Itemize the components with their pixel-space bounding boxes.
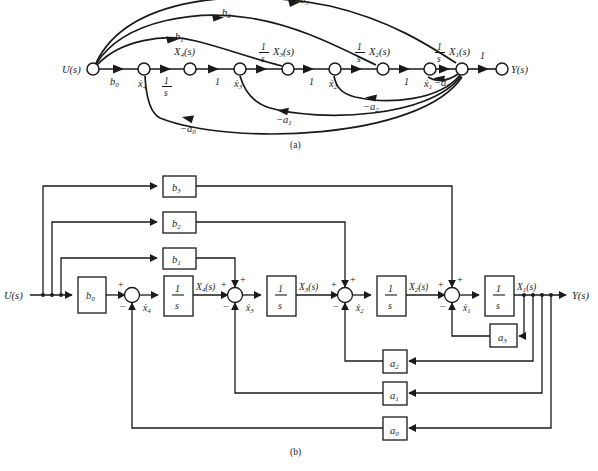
svg-text:1: 1 <box>164 76 169 86</box>
curve-b2 <box>96 15 376 65</box>
label-unity-a3: 1 <box>404 76 409 87</box>
node-x2dot <box>329 63 341 75</box>
svg-text:1: 1 <box>175 283 180 294</box>
label-b0: b0 <box>110 76 119 89</box>
panel-a-feedback-curves <box>145 74 462 134</box>
label-minus-a1: −a1 <box>276 114 292 127</box>
label-b-x2dot: ẋ2 <box>355 303 364 314</box>
panel-b: U(s) Y(s) b0 b3 b2 b1 a3 a2 a1 a0 1 s 1 … <box>4 176 589 458</box>
svg-text:−: − <box>333 301 339 312</box>
svg-text:s: s <box>278 300 282 311</box>
label-b1: b1 <box>175 31 184 44</box>
label-X4s: X4(s) <box>173 46 196 59</box>
svg-text:+: + <box>240 274 246 285</box>
svg-text:1: 1 <box>357 42 362 52</box>
panel-b-caption: (b) <box>290 447 301 458</box>
summing-junction-3 <box>338 288 353 303</box>
svg-text:+: + <box>118 279 124 290</box>
node-x4dot <box>138 63 150 75</box>
figure-container: U(s) Y(s) b0 ẋ4 X4(s) 1 s 1 ẋ3 1 s X3(s)… <box>0 0 598 471</box>
label-b-x3dot: ẋ3 <box>245 303 254 314</box>
node-X4 <box>184 63 196 75</box>
label-x1dot: ẋ1 <box>423 78 432 91</box>
svg-text:s: s <box>164 88 168 98</box>
svg-text:1: 1 <box>261 42 266 52</box>
wire-b1-to-sum2 <box>196 258 235 287</box>
label-X3s: X3(s) <box>272 46 295 59</box>
label-x2dot: ẋ2 <box>328 78 338 91</box>
label-b-input-us: U(s) <box>4 290 23 302</box>
svg-text:s: s <box>261 54 265 64</box>
node-output-ys <box>496 63 508 75</box>
label-output-ys: Y(s) <box>511 64 528 76</box>
label-b-X2s: X2(s) <box>408 282 428 293</box>
panel-b-input-tap-dots <box>41 293 63 297</box>
label-unity-a4: 1 <box>480 50 485 61</box>
summing-junction-4 <box>445 288 460 303</box>
svg-text:−: − <box>440 301 446 312</box>
node-X1 <box>456 63 468 75</box>
svg-text:1: 1 <box>437 42 442 52</box>
fraction-1s-a4: 1 s <box>435 42 445 64</box>
summing-junction-2 <box>228 288 243 303</box>
label-b3: b3 <box>300 0 309 7</box>
svg-text:1: 1 <box>278 283 283 294</box>
label-b2: b2 <box>222 7 231 20</box>
fraction-1s-a2: 1 s <box>259 42 269 64</box>
svg-text:+: + <box>331 279 337 290</box>
svg-text:+: + <box>350 274 356 285</box>
label-unity-a2: 1 <box>309 76 314 87</box>
label-minus-a0: −a0 <box>180 123 196 136</box>
label-b-x1dot: ẋ1 <box>462 303 471 314</box>
svg-text:−: − <box>223 301 229 312</box>
label-input-us: U(s) <box>62 64 81 76</box>
node-X2 <box>377 63 389 75</box>
svg-text:+: + <box>438 279 444 290</box>
svg-text:−: − <box>120 301 126 312</box>
node-x3dot <box>234 63 246 75</box>
node-X3 <box>282 63 294 75</box>
svg-text:s: s <box>437 54 441 64</box>
figure-svg: U(s) Y(s) b0 ẋ4 X4(s) 1 s 1 ẋ3 1 s X3(s)… <box>0 0 598 471</box>
fraction-1s-a1: 1 s <box>162 76 172 98</box>
svg-text:1: 1 <box>388 283 393 294</box>
label-minus-a2: −a2 <box>363 101 379 114</box>
label-b-X1s: X1(s) <box>516 282 536 293</box>
panel-b-output-taps <box>409 295 551 428</box>
summing-junction-1 <box>125 288 140 303</box>
panel-a-feedforward-arrowheads <box>166 0 300 44</box>
svg-text:s: s <box>388 300 392 311</box>
svg-text:s: s <box>496 300 500 311</box>
svg-text:1: 1 <box>496 283 501 294</box>
label-b-X4s: X4(s) <box>195 282 215 293</box>
wire-a1-to-sum2 <box>235 303 383 393</box>
label-X1s: X1(s) <box>448 46 471 59</box>
fraction-1s-a3: 1 s <box>355 42 365 64</box>
svg-text:s: s <box>357 54 361 64</box>
node-x1dot <box>424 63 436 75</box>
label-X2s: X2(s) <box>368 46 391 59</box>
panel-a: U(s) Y(s) b0 ẋ4 X4(s) 1 s 1 ẋ3 1 s X3(s)… <box>62 0 528 151</box>
svg-text:+: + <box>457 274 463 285</box>
svg-text:s: s <box>175 300 179 311</box>
label-unity-a1: 1 <box>215 76 220 87</box>
panel-a-caption: (a) <box>290 140 301 151</box>
label-b-output-ys: Y(s) <box>572 290 589 302</box>
wire-a3-to-sum4 <box>452 303 490 336</box>
label-b-x4dot: ẋ4 <box>142 303 151 314</box>
label-b-X3s: X3(s) <box>298 282 318 293</box>
svg-text:+: + <box>221 279 227 290</box>
